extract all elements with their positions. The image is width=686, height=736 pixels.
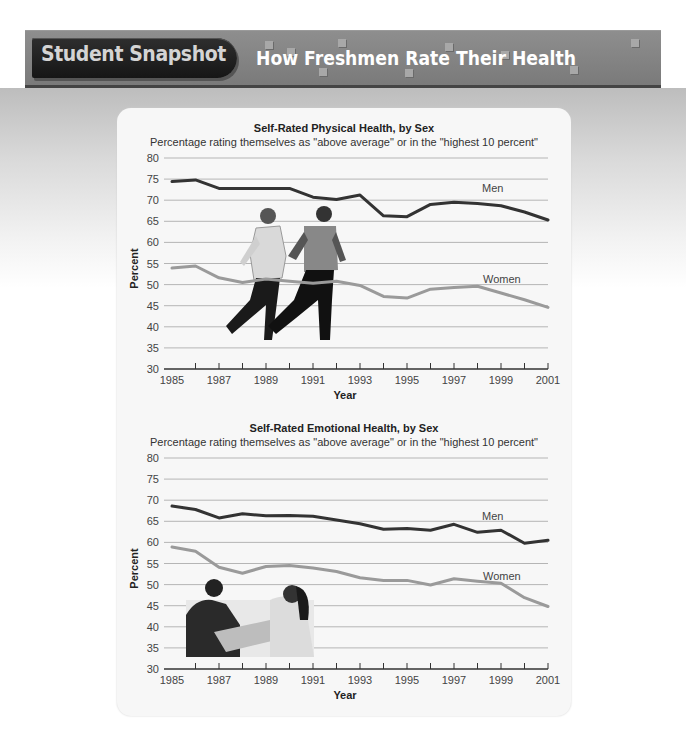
y-tick-label: 50: [147, 579, 159, 591]
x-tick-label: 1999: [489, 674, 513, 686]
x-tick-label: 1995: [395, 374, 419, 386]
x-tick-label: 1997: [442, 374, 466, 386]
y-tick-label: 55: [147, 258, 159, 270]
x-tick-label: 2001: [536, 374, 560, 386]
y-tick-label: 40: [147, 621, 159, 633]
x-tick-label: 1985: [160, 674, 184, 686]
women-series-label: Women: [483, 273, 521, 285]
x-axis-label: Year: [333, 389, 357, 401]
charts-svg: 3035404550556065707580198519871989199119…: [0, 0, 686, 736]
x-tick-label: 1989: [254, 374, 278, 386]
y-tick-label: 60: [147, 236, 159, 248]
y-tick-label: 65: [147, 215, 159, 227]
y-tick-label: 45: [147, 600, 159, 612]
y-axis-label: Percent: [128, 548, 140, 589]
x-tick-label: 1995: [395, 674, 419, 686]
x-tick-label: 1989: [254, 674, 278, 686]
y-tick-label: 30: [147, 363, 159, 375]
x-tick-label: 1985: [160, 374, 184, 386]
y-tick-label: 80: [147, 152, 159, 164]
y-axis-label: Percent: [128, 248, 140, 289]
men-series-label: Men: [482, 182, 503, 194]
y-tick-label: 75: [147, 173, 159, 185]
y-tick-label: 45: [147, 300, 159, 312]
running-couple-photo: [226, 206, 346, 340]
y-tick-label: 80: [147, 452, 159, 464]
y-tick-label: 40: [147, 321, 159, 333]
emotional-health-chart: 3035404550556065707580198519871989199119…: [128, 452, 560, 701]
y-tick-label: 35: [147, 642, 159, 654]
y-tick-label: 70: [147, 494, 159, 506]
x-tick-label: 1999: [489, 374, 513, 386]
y-tick-label: 35: [147, 342, 159, 354]
y-tick-label: 65: [147, 515, 159, 527]
y-tick-label: 60: [147, 536, 159, 548]
x-tick-label: 1987: [207, 374, 231, 386]
couple-at-table-photo: [186, 579, 314, 657]
y-tick-label: 55: [147, 558, 159, 570]
x-tick-label: 1987: [207, 674, 231, 686]
x-tick-label: 1993: [348, 374, 372, 386]
x-tick-label: 1993: [348, 674, 372, 686]
y-tick-label: 70: [147, 194, 159, 206]
y-tick-label: 50: [147, 279, 159, 291]
x-axis-label: Year: [333, 689, 357, 701]
women-series-label: Women: [483, 570, 521, 582]
x-tick-label: 1991: [301, 374, 325, 386]
x-tick-label: 2001: [536, 674, 560, 686]
y-tick-label: 30: [147, 663, 159, 675]
y-tick-label: 75: [147, 473, 159, 485]
x-tick-label: 1991: [301, 674, 325, 686]
men-series-label: Men: [482, 510, 503, 522]
x-tick-label: 1997: [442, 674, 466, 686]
physical-health-chart: 3035404550556065707580198519871989199119…: [128, 152, 560, 401]
